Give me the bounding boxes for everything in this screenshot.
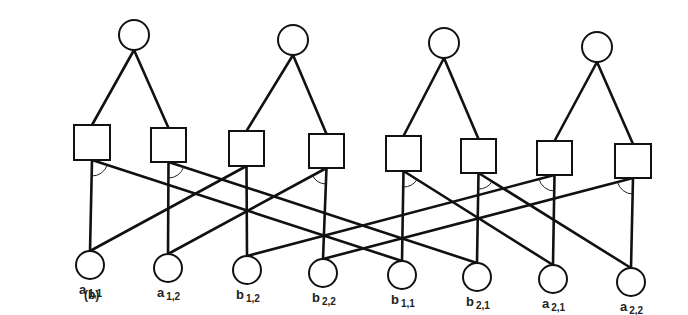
- leaf-label: a2,2: [620, 299, 644, 315]
- square-node-S6: [461, 139, 496, 173]
- edge-T2-S3: [247, 55, 294, 131]
- leaf-node-b2-2: [309, 259, 337, 287]
- leaf-label: b2,1: [466, 294, 490, 311]
- leaf-node-b2-1: [463, 263, 491, 291]
- edge-T3-S6: [444, 58, 479, 139]
- leaf-label: b1,1: [391, 292, 415, 309]
- edge-S4-B4: [323, 168, 327, 259]
- square-node-S4: [309, 134, 344, 168]
- square-node-S8: [615, 144, 651, 178]
- edge-S8-B8: [631, 178, 633, 268]
- top-node-T2: [278, 25, 308, 55]
- edge-T3-S5: [404, 58, 445, 136]
- top-node-T3: [429, 28, 459, 58]
- square-to-leaf-edges: [90, 160, 633, 268]
- edge-S7-B7: [553, 175, 555, 265]
- top-node-T4: [582, 32, 612, 62]
- top-circle-nodes: [119, 20, 612, 62]
- edge-T4-S7: [555, 62, 598, 141]
- and-arc-icon: [539, 179, 554, 191]
- square-node-S3: [229, 131, 264, 166]
- leaf-node-a1-2: [154, 254, 182, 282]
- leaf-node-a1-1: [76, 251, 104, 279]
- leaf-label: a2,1: [542, 296, 566, 313]
- leaf-node-b1-1: [388, 261, 416, 289]
- leaf-node-a2-2: [617, 268, 645, 296]
- edge-T4-S8: [597, 62, 633, 144]
- leaf-label: b2,2: [312, 290, 336, 307]
- leaf-label: b1,2: [236, 287, 260, 304]
- and-arc-icon: [168, 167, 183, 178]
- panel-label: (b): [84, 288, 99, 302]
- and-arc-icon: [478, 181, 492, 189]
- square-node-S2: [151, 128, 186, 162]
- top-node-T1: [119, 20, 149, 50]
- leaf-node-a2-1: [539, 265, 567, 293]
- and-or-graph-diagram: a1,1a1,2b1,2b2,2b1,1b2,1a2,1a2,2: [0, 0, 688, 315]
- leaf-label: a1,2: [157, 285, 181, 302]
- square-nodes: [74, 125, 651, 178]
- edge-T1-S2: [134, 50, 169, 128]
- square-node-S1: [74, 125, 110, 160]
- square-node-S5: [386, 136, 421, 171]
- edge-T2-S4: [293, 55, 327, 134]
- and-arc-icon: [618, 182, 633, 194]
- edge-S1-B1: [90, 160, 92, 251]
- and-arc-icon: [92, 165, 108, 176]
- edge-T1-S1: [92, 50, 134, 125]
- and-arc-icon: [312, 176, 325, 184]
- leaf-node-b1-2: [233, 256, 261, 284]
- square-node-S7: [537, 141, 572, 175]
- and-arc-icon: [403, 180, 417, 187]
